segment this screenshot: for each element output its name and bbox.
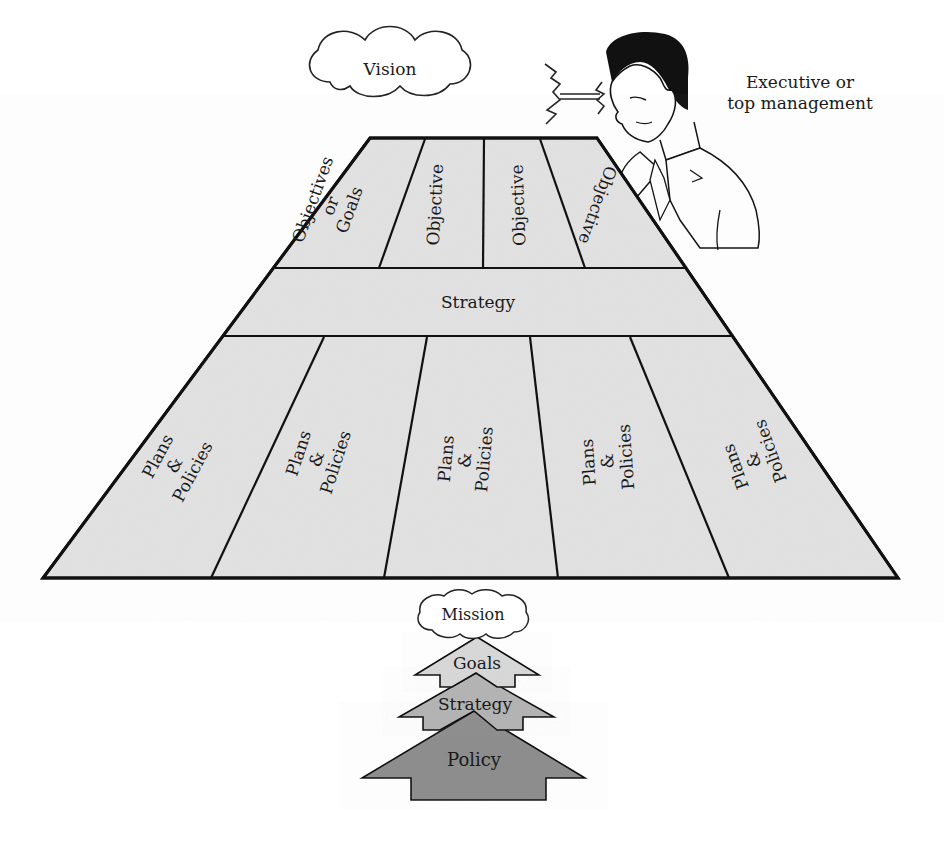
executive-label: Executive or top management [700, 72, 900, 114]
mission-label: Mission [442, 605, 505, 624]
planning-platform [43, 138, 898, 578]
goals-label: Goals [453, 653, 501, 673]
policy-label: Policy [447, 749, 502, 770]
vision-beam-icon [545, 64, 604, 124]
objective-cell-2: Objective [507, 164, 530, 246]
strategy-band-label: Strategy [441, 292, 516, 312]
vision-cloud: Vision [309, 27, 470, 97]
executive-label-line2: top management [700, 93, 900, 114]
mission-cloud: Mission [418, 590, 528, 639]
strategy-planning-diagram: Vision [0, 0, 944, 849]
objective-cell-1: Objective [423, 163, 447, 246]
strategy-label: Strategy [438, 694, 513, 714]
vision-label: Vision [363, 59, 417, 79]
executive-label-line1: Executive or [700, 72, 900, 93]
policy-arrow: Policy [362, 711, 585, 800]
